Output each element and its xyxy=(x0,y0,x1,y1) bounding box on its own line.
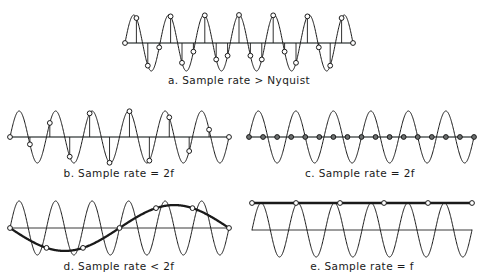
panel-a-caption: a. Sample rate > Nyquist xyxy=(168,74,310,86)
sample-point xyxy=(28,142,33,147)
sample-point xyxy=(275,135,280,140)
sample-point xyxy=(472,135,477,140)
panel-a: a. Sample rate > Nyquist xyxy=(123,13,356,86)
sample-point xyxy=(44,245,49,250)
sample-point xyxy=(227,226,232,231)
sample-point xyxy=(227,135,232,140)
sample-point xyxy=(387,135,392,140)
sample-point xyxy=(250,201,255,206)
sample-point xyxy=(107,160,112,165)
sample-point xyxy=(328,63,333,68)
panel-c-waveform xyxy=(247,111,477,163)
sample-point xyxy=(401,135,406,140)
panel-c: c. Sample rate = 2f xyxy=(247,111,477,179)
sample-point xyxy=(123,41,128,46)
panel-b-waveform xyxy=(8,109,232,165)
sampling-rate-figure: a. Sample rate > Nyquist b. Sample rate … xyxy=(0,0,484,280)
sample-point xyxy=(458,135,463,140)
sample-point xyxy=(117,226,122,231)
sample-point xyxy=(351,41,356,46)
sample-point xyxy=(303,135,308,140)
sample-point xyxy=(317,135,322,140)
sample-point xyxy=(248,53,253,58)
sample-point xyxy=(470,201,475,206)
sample-point xyxy=(134,16,139,21)
sample-point xyxy=(345,135,350,140)
sample-point xyxy=(202,13,207,18)
sample-point xyxy=(145,63,150,68)
sample-point xyxy=(157,45,162,50)
sample-point xyxy=(426,201,431,206)
sample-point xyxy=(271,13,276,18)
sample-point xyxy=(359,135,364,140)
panel-c-caption: c. Sample rate = 2f xyxy=(305,167,415,179)
sample-point xyxy=(190,206,195,211)
sample-point xyxy=(282,49,287,54)
sample-point xyxy=(237,13,242,18)
sample-point xyxy=(225,53,230,58)
panel-d-waveform xyxy=(8,201,232,255)
sample-point xyxy=(305,14,310,19)
sample-point xyxy=(8,135,13,140)
sample-point xyxy=(289,135,294,140)
sample-point xyxy=(47,121,52,126)
sample-point xyxy=(259,57,264,62)
sample-point xyxy=(247,135,252,140)
panel-a-waveform xyxy=(123,13,356,71)
sample-point xyxy=(415,135,420,140)
panel-d-caption: d. Sample rate < 2f xyxy=(64,260,175,272)
sample-point xyxy=(382,201,387,206)
sample-point xyxy=(373,135,378,140)
sample-point xyxy=(8,226,13,231)
sample-point xyxy=(67,154,72,159)
sample-point xyxy=(180,60,185,65)
sample-point xyxy=(187,149,192,154)
sample-point xyxy=(207,127,212,132)
sample-point xyxy=(316,45,321,50)
sample-point xyxy=(168,14,173,19)
sample-point xyxy=(87,111,92,116)
sample-point xyxy=(127,109,132,114)
sample-point xyxy=(214,57,219,62)
panel-e-waveform xyxy=(250,201,475,257)
sample-point xyxy=(147,158,152,163)
sample-point xyxy=(294,60,299,65)
sample-point xyxy=(443,135,448,140)
sample-point xyxy=(331,135,336,140)
panel-e-caption: e. Sample rate = f xyxy=(310,260,414,272)
panel-d: d. Sample rate < 2f xyxy=(8,201,232,272)
panel-b-caption: b. Sample rate = 2f xyxy=(64,167,175,179)
sample-point xyxy=(191,49,196,54)
sample-point xyxy=(261,135,266,140)
sample-point xyxy=(167,115,172,120)
panel-b: b. Sample rate = 2f xyxy=(8,109,232,179)
sample-point xyxy=(294,201,299,206)
sample-point xyxy=(81,245,86,250)
sample-point xyxy=(339,16,344,21)
panel-e: e. Sample rate = f xyxy=(250,201,475,272)
sample-point xyxy=(338,201,343,206)
sample-point xyxy=(154,206,159,211)
sample-point xyxy=(429,135,434,140)
